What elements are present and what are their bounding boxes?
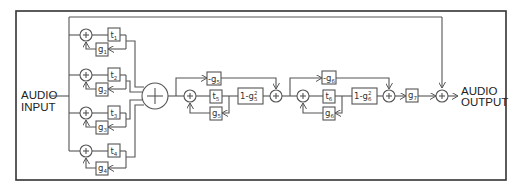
comb-filter-3: t3 g3 (69, 100, 142, 134)
allpass-filter-5: -g5 t5 g5 1-g25 (176, 72, 282, 120)
reverb-diagram: AUDIO INPUT t1 g1 t2 g2 (0, 0, 521, 192)
comb-filter-2: t2 g2 (69, 68, 142, 96)
audio-output-label: AUDIO OUTPUT (461, 85, 508, 108)
audio-input-label: AUDIO INPUT (21, 89, 61, 113)
allpass-filter-6: -g6 t6 g6 1-g26 (290, 71, 395, 120)
output-stage: g7 (395, 89, 458, 102)
svg-text:1-g25: 1-g25 (240, 90, 258, 102)
comb-filter-1: t1 g1 (69, 28, 144, 87)
svg-text:1-g26: 1-g26 (354, 90, 372, 102)
main-summing-junction (142, 83, 168, 109)
